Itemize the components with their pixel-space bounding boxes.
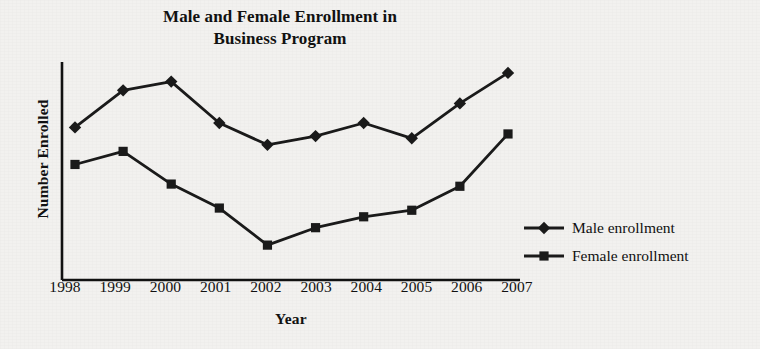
data-point-marker — [261, 139, 273, 151]
data-point-marker — [503, 129, 512, 138]
data-point-marker — [309, 130, 321, 142]
y-axis-title: Number Enrolled — [34, 84, 52, 234]
series-male — [69, 67, 514, 151]
diamond-marker-icon — [522, 220, 566, 236]
x-tick-label-2003: 2003 — [291, 278, 341, 296]
square-marker-icon — [522, 248, 566, 264]
series-female — [70, 129, 512, 249]
legend-item-female[interactable]: Female enrollment — [522, 242, 758, 270]
series-line — [75, 134, 508, 245]
x-tick-label-1998: 1998 — [40, 278, 90, 296]
data-point-marker — [119, 147, 128, 156]
x-tick-label-2007: 2007 — [492, 278, 542, 296]
x-tick-label-2005: 2005 — [392, 278, 442, 296]
data-point-marker — [359, 212, 368, 221]
legend-item-label: Female enrollment — [572, 247, 689, 265]
x-axis-tick-labels: 1998199920002001200220032004200520062007 — [40, 278, 542, 296]
data-point-marker — [70, 160, 79, 169]
x-tick-label-2001: 2001 — [191, 278, 241, 296]
plot-area — [0, 0, 760, 349]
data-point-marker — [407, 206, 416, 215]
enrollment-line-chart: Male and Female Enrollment in Business P… — [0, 0, 760, 349]
series-line — [75, 73, 508, 145]
series-layer — [69, 67, 514, 250]
x-axis-title: Year — [62, 310, 520, 328]
x-tick-label-2000: 2000 — [140, 278, 190, 296]
data-point-marker — [455, 182, 464, 191]
data-point-marker — [311, 223, 320, 232]
legend-item-male[interactable]: Male enrollment — [522, 214, 758, 242]
data-point-marker — [263, 241, 272, 250]
x-tick-label-2006: 2006 — [442, 278, 492, 296]
data-point-marker — [357, 117, 369, 129]
data-point-marker — [167, 179, 176, 188]
data-point-marker — [215, 203, 224, 212]
legend-item-label: Male enrollment — [572, 219, 675, 237]
chart-legend: Male enrollmentFemale enrollment — [522, 214, 758, 270]
x-tick-label-2002: 2002 — [241, 278, 291, 296]
x-tick-label-2004: 2004 — [341, 278, 391, 296]
x-tick-label-1999: 1999 — [90, 278, 140, 296]
